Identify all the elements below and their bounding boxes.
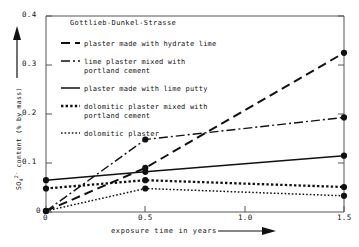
y-tick-label-0.3: 0.3 bbox=[22, 60, 36, 69]
line-chart-canvas bbox=[0, 0, 359, 247]
y-axis-title-superscript: 2- bbox=[13, 172, 19, 179]
legend-label-lime-portland-line1: lime plaster mixed with bbox=[84, 58, 186, 66]
x-tick-label-1.0: 1.0 bbox=[238, 214, 252, 223]
series-2 bbox=[43, 153, 347, 184]
legend-line-samples bbox=[61, 43, 80, 133]
legend-label-hydrate-lime: plaster made with hydrate lime bbox=[84, 40, 216, 48]
data-point-marker bbox=[142, 185, 148, 191]
series-line bbox=[46, 180, 344, 188]
y-axis-title-rest: content (% by mass) bbox=[15, 87, 23, 171]
y-axis-arrow-icon bbox=[13, 26, 21, 78]
legend-label-dolomitic-plaster: dolomitic plaster bbox=[84, 130, 159, 138]
x-tick-label-0.5: 0.5 bbox=[138, 214, 152, 223]
data-point-marker bbox=[142, 177, 148, 183]
legend-label-dolomitic-portland-line2: portland cement bbox=[84, 112, 150, 120]
x-tick-label-1.5: 1.5 bbox=[337, 214, 351, 223]
series-4 bbox=[43, 185, 347, 214]
legend-label-lime-putty: plaster made with lime putty bbox=[84, 85, 208, 93]
series-line bbox=[46, 156, 344, 181]
data-point-marker bbox=[341, 114, 347, 120]
y-axis-title: SO42- content (% by mass) bbox=[14, 87, 25, 190]
series-3 bbox=[43, 177, 347, 192]
legend-label-dolomitic-portland-line1: dolomitic plaster mixed with bbox=[84, 103, 208, 111]
x-axis-ticks bbox=[46, 206, 344, 212]
x-axis-arrow-icon bbox=[218, 227, 276, 235]
data-point-marker bbox=[341, 153, 347, 159]
data-point-marker bbox=[341, 184, 347, 190]
data-point-marker bbox=[142, 169, 148, 175]
plot-title: Gottlieb-Dunkel-Strasse bbox=[70, 19, 176, 27]
x-axis-title: exposure time in years bbox=[111, 227, 217, 235]
y-axis-title-base: SO bbox=[15, 182, 23, 190]
legend-label-lime-portland-line2: portland cement bbox=[84, 67, 150, 75]
data-point-marker bbox=[43, 177, 49, 183]
y-axis-title-subscript: 4 bbox=[18, 178, 24, 181]
data-point-marker bbox=[43, 185, 49, 191]
data-point-marker bbox=[341, 193, 347, 199]
data-point-marker bbox=[341, 50, 347, 56]
x-tick-label-0: 0 bbox=[43, 214, 48, 223]
chart-container: 0.4 0.3 0.2 0.1 0 0 0.5 1.0 1.5 SO42- co… bbox=[0, 0, 359, 247]
y-axis-ticks-right bbox=[338, 16, 344, 163]
y-tick-label-0.4: 0.4 bbox=[22, 11, 36, 20]
y-tick-label-0: 0 bbox=[36, 207, 41, 216]
